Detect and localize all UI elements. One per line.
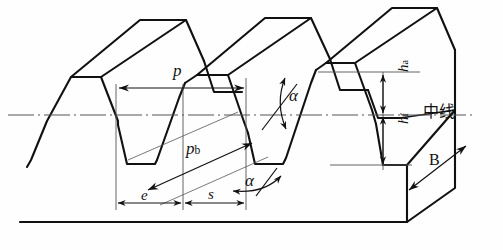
tooth-left-top-face [71,20,186,77]
trough-3-front [376,124,407,165]
addendum-label: ha [396,60,411,72]
tooth-left-front-profile [27,77,118,167]
dedendum-label-main: h [395,117,411,125]
tooth-middle-front-profile [185,75,248,133]
diagram-canvas [0,0,503,250]
tooth-left-rear-flank [186,20,204,61]
tooth-right-top-face [326,8,437,63]
dedendum-label-sub: f [399,113,410,116]
centerline-label-text: 中线 [423,102,455,121]
base-pitch-label: pb [186,140,200,157]
addendum-label-main: h [395,65,411,73]
pressure-angle-lower-marker [233,168,281,196]
space-width-label: e [141,188,148,203]
face-width-label: B [429,152,440,168]
extension-lines [116,72,420,210]
rack-tooth-profile-figure: p pb e s α α ha hf 中线 B [0,0,503,250]
tooth-right-rear-flank [437,8,455,50]
pressure-angle-upper-label: α [289,87,298,104]
base-pitch-label-sub: b [195,144,201,157]
centerline-label: 中线 [423,104,455,120]
tooth-middle-top-face [197,18,311,75]
tooth-middle-rear-flank [311,18,330,59]
pressure-angle-lower-label: α [245,172,254,189]
pitch-label: p [173,62,182,79]
base-pitch-label-main: p [186,139,195,158]
tooth-thickness-label: s [208,187,214,202]
addendum-label-sub: a [399,60,410,65]
trough-1-front [118,83,185,164]
dedendum-label: hf [396,113,411,124]
